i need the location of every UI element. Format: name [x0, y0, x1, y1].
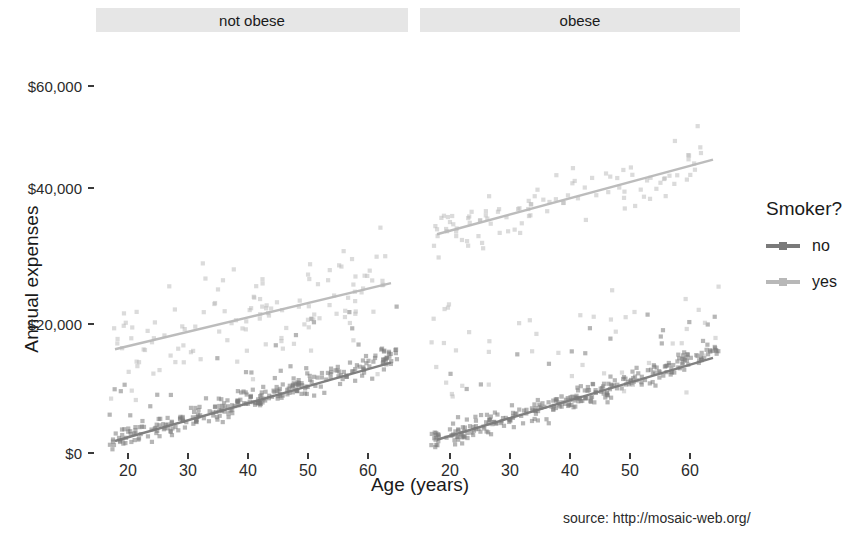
y-tick-label-40000: $40,000: [0, 180, 82, 197]
x-tick-mark-left-60: [367, 453, 369, 459]
legend-title: Smoker?: [766, 198, 842, 220]
legend-point-yes: [779, 278, 787, 286]
legend-label-yes: yes: [812, 273, 837, 291]
facet-label-not-obese: not obese: [219, 12, 285, 29]
y-tick-mark-20000: [88, 323, 94, 325]
y-tick-label-60000: $60,000: [0, 78, 82, 95]
panel-obese: [420, 34, 740, 452]
panel-not-obese-plot: [96, 34, 408, 452]
x-axis-title: Age (years): [95, 474, 745, 496]
panel-obese-plot: [420, 34, 740, 452]
y-tick-mark-60000: [88, 85, 94, 87]
y-tick-mark-40000: [88, 187, 94, 189]
y-tick-mark-0: [88, 452, 94, 454]
x-tick-mark-left-20: [127, 453, 129, 459]
y-tick-label-0: $0: [0, 445, 82, 462]
panel-not-obese: [96, 34, 408, 452]
x-tick-mark-right-50: [629, 453, 631, 459]
x-tick-mark-right-30: [509, 453, 511, 459]
legend-item-yes[interactable]: yes: [766, 272, 842, 292]
x-tick-mark-left-30: [187, 453, 189, 459]
legend-item-no[interactable]: no: [766, 236, 842, 256]
y-tick-label-20000: $20,000: [0, 316, 82, 333]
facet-strip-obese: obese: [420, 8, 740, 32]
x-tick-mark-right-60: [689, 453, 691, 459]
legend-key-yes: [766, 272, 800, 292]
legend-label-no: no: [812, 237, 830, 255]
legend: Smoker? no yes: [766, 198, 842, 308]
x-tick-mark-right-40: [569, 453, 571, 459]
x-tick-mark-left-50: [307, 453, 309, 459]
facet-strip-not-obese: not obese: [96, 8, 408, 32]
x-tick-mark-right-20: [449, 453, 451, 459]
facet-label-obese: obese: [560, 12, 601, 29]
legend-key-no: [766, 236, 800, 256]
legend-point-no: [779, 242, 787, 250]
x-tick-mark-left-40: [247, 453, 249, 459]
scatter-chart: Annual expenses $60,000 $40,000 $20,000 …: [0, 0, 855, 545]
y-axis-title: Annual expenses: [21, 129, 43, 429]
source-note: source: http://mosaic-web.org/: [563, 510, 751, 526]
